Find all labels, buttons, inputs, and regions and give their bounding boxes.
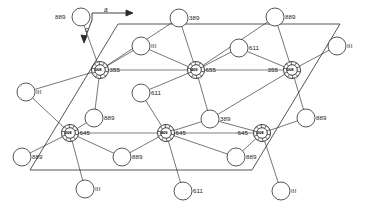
ligand-atom (85, 109, 103, 127)
ligand-atom (76, 180, 94, 198)
ligand-atom-label: 889 (285, 14, 296, 20)
ligand-atom-label: 611 (151, 90, 161, 96)
atom-circles (13, 8, 346, 200)
ligand-atom-label: 889 (316, 115, 327, 121)
ligand-atom (328, 37, 346, 55)
ligand-atom-label: III (291, 188, 296, 194)
ligand-atom (17, 83, 35, 101)
ligand-atom-label: III (151, 43, 156, 49)
central-atom-code: 008 (65, 131, 72, 135)
bond-lines (30, 22, 329, 182)
central-atom-code: 409 (161, 131, 168, 135)
central-atom-bond-label: 645 (176, 130, 187, 136)
ligand-atom (170, 9, 188, 27)
central-atom-code: 008 (257, 131, 264, 135)
ligand-atom-label: 889 (55, 14, 66, 20)
central-atom-bond-label: 355 (268, 67, 279, 73)
central-atom-bond-label: 645 (238, 130, 249, 136)
central-atom-bond-label: 645 (80, 130, 91, 136)
ligand-atom (201, 110, 219, 128)
ligand-atom-label: 611 (193, 188, 203, 194)
axis-label-c: c (85, 27, 88, 34)
ligand-atom-label: 389 (189, 15, 200, 21)
ligand-atom-label: 889 (104, 115, 115, 121)
central-atom-code: 008 (95, 68, 102, 72)
ligand-atom (230, 39, 248, 57)
central-atom-bond-label: 355 (110, 67, 121, 73)
ligand-atom (227, 148, 245, 166)
ligand-atom (174, 182, 192, 200)
ligand-atom (13, 148, 31, 166)
ligand-atom-label: 611 (249, 45, 259, 51)
central-atom-code: 008 (287, 68, 294, 72)
ligand-atom-label: III (95, 186, 100, 192)
ligand-atom-label: III (36, 89, 41, 95)
ligand-atom (132, 84, 150, 102)
ligand-atom (72, 8, 90, 26)
ligand-atom-label: 889 (132, 154, 143, 160)
ligand-atom (266, 8, 284, 26)
ligand-atom-label: 389 (220, 116, 231, 122)
axis-label-a: a (104, 7, 108, 14)
ligand-atom-label: 889 (32, 154, 43, 160)
central-atom-bond-label: 655 (206, 67, 217, 73)
ligand-atom (113, 148, 131, 166)
crystal-structure-figure: a c 889389889IIIIII611III611889389889889… (0, 0, 367, 211)
structure-canvas (0, 0, 367, 211)
unit-cell-outline (30, 24, 340, 170)
ligand-atom (272, 182, 290, 200)
central-atom-code: 409 (191, 68, 198, 72)
ligand-atom-label: 889 (246, 154, 257, 160)
ligand-atom-label: III (347, 43, 352, 49)
ligand-atom (132, 37, 150, 55)
ligand-atom (297, 109, 315, 127)
